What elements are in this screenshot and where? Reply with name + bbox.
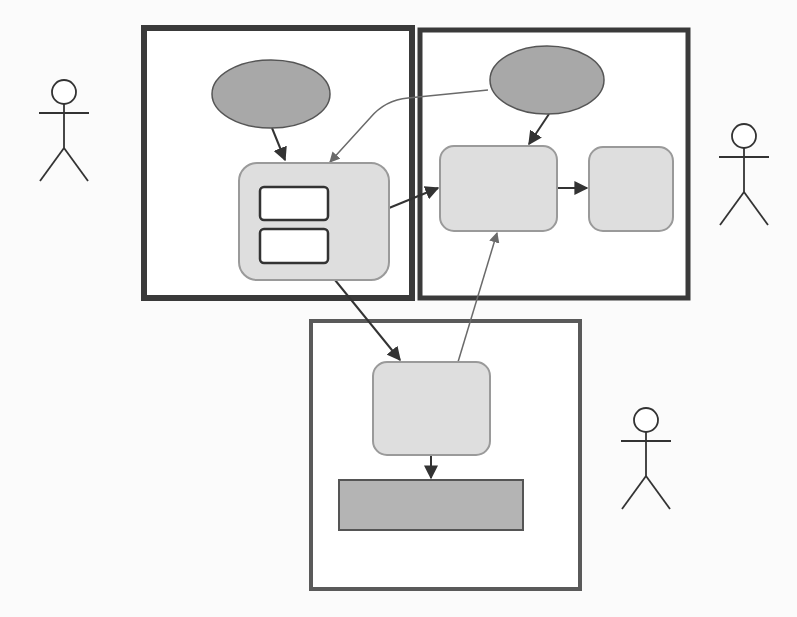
- actor-bottom-icon: [621, 408, 671, 509]
- diagram-canvas: [0, 0, 797, 617]
- inner-box-bottom: [260, 229, 328, 263]
- inner-box-top: [260, 187, 328, 220]
- box-bottom-main: [373, 362, 490, 455]
- box-right-side: [589, 147, 673, 231]
- actor-left-icon: [39, 80, 89, 181]
- ellipse-right: [490, 46, 604, 114]
- box-right-main: [440, 146, 557, 231]
- ellipse-left: [212, 60, 330, 128]
- bottom-bar: [339, 480, 523, 530]
- actor-right-icon: [719, 124, 769, 225]
